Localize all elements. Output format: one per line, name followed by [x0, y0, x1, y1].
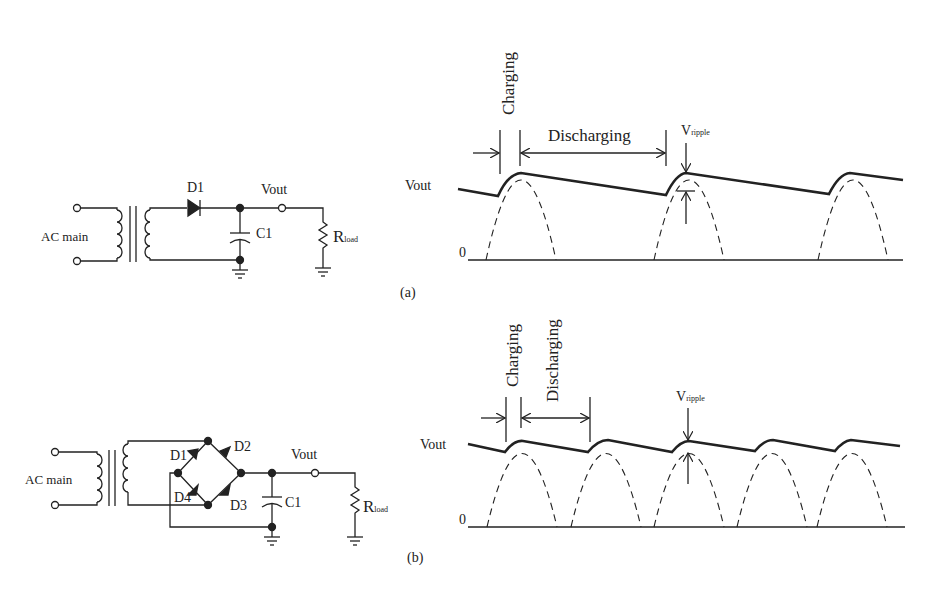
discharging-label-a: Discharging — [548, 127, 631, 144]
discharging-label-b: Discharging — [544, 319, 561, 402]
charging-label-b: Charging — [504, 324, 521, 387]
waveform-a — [458, 130, 903, 260]
resistor-rload — [285, 208, 327, 268]
caption-b: (b) — [407, 551, 423, 565]
ripple-label-a: Vripple — [681, 124, 710, 138]
zero-label-a: 0 — [459, 246, 466, 260]
primary-coil — [117, 210, 122, 258]
ac-main-label-a: AC main — [41, 230, 88, 243]
vout-terminal — [279, 205, 286, 212]
vout-axis-label-b: Vout — [420, 438, 446, 452]
vout-label-a: Vout — [261, 183, 287, 197]
diode-d3 — [220, 485, 230, 495]
ripple-label-b: Vripple — [676, 390, 705, 404]
rectified-sine — [486, 180, 888, 260]
charging-label-a: Charging — [500, 52, 517, 115]
rload-label-a: Rload — [333, 228, 358, 245]
diagram-canvas — [0, 0, 933, 596]
rload-label-b: Rload — [363, 498, 388, 515]
secondary-coil — [145, 210, 150, 258]
c1-label-b: C1 — [285, 496, 301, 510]
d1-label-a: D1 — [187, 181, 204, 195]
circuit-a-halfwave — [74, 200, 332, 278]
ac-main-label-b: AC main — [25, 473, 72, 486]
diode-d2 — [220, 447, 230, 457]
waveform-b — [468, 397, 905, 527]
d2-label-b: D2 — [234, 440, 251, 454]
d1-label-b: D1 — [170, 449, 187, 463]
vout-trace — [458, 173, 903, 196]
caption-a: (a) — [400, 286, 416, 300]
c1-label-a: C1 — [256, 227, 272, 241]
d4-label-b: D4 — [174, 491, 191, 505]
zero-label-b: 0 — [459, 513, 466, 527]
vout-label-b: Vout — [291, 448, 317, 462]
vout-axis-label-a: Vout — [405, 179, 431, 193]
ac-terminal-bottom — [74, 258, 81, 265]
d3-label-b: D3 — [230, 499, 247, 513]
diode-d1 — [188, 200, 200, 216]
ac-terminal-top — [74, 205, 81, 212]
